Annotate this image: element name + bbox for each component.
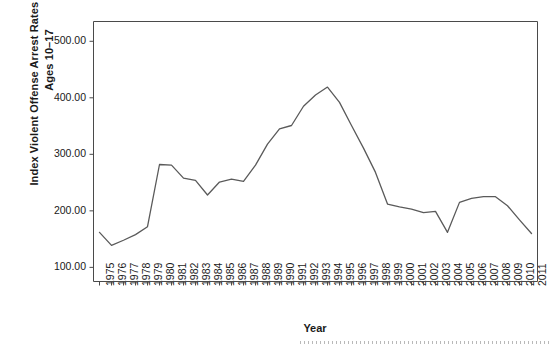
data-series-group bbox=[100, 87, 532, 245]
chart-figure: Index Violent Offense Arrest Rates per 1… bbox=[0, 0, 558, 349]
axes-frame bbox=[94, 22, 538, 282]
y-axis-ticks bbox=[90, 41, 94, 267]
plot-area bbox=[0, 0, 558, 349]
plot-frame bbox=[94, 22, 538, 282]
data-series-line bbox=[100, 87, 532, 245]
page-footer-dotted-rule bbox=[300, 341, 550, 344]
x-axis-ticks bbox=[100, 282, 532, 286]
